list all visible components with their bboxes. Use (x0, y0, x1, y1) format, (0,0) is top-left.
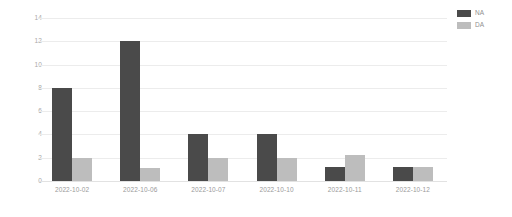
bar[interactable] (277, 158, 297, 181)
bar-group (257, 18, 297, 181)
legend-swatch-icon (457, 10, 471, 17)
x-axis-tick-label: 2022-10-07 (174, 187, 242, 194)
x-axis-tick-label: 2022-10-10 (243, 187, 311, 194)
bar[interactable] (345, 155, 365, 181)
bars-layer (38, 18, 447, 181)
bar[interactable] (325, 167, 345, 181)
plot-area (38, 18, 447, 181)
bar[interactable] (52, 88, 72, 181)
bar[interactable] (413, 167, 433, 181)
bar[interactable] (140, 168, 160, 181)
bar-group (325, 18, 365, 181)
gridline (38, 181, 447, 182)
bar[interactable] (72, 158, 92, 181)
legend-item[interactable]: DA (457, 22, 512, 29)
bar[interactable] (393, 167, 413, 181)
bar-chart: 02468101214 2022-10-022022-10-062022-10-… (0, 0, 512, 217)
legend-label: NA (475, 10, 484, 17)
x-axis-tick-label: 2022-10-12 (379, 187, 447, 194)
legend-swatch-icon (457, 22, 471, 29)
x-axis-tick-label: 2022-10-06 (106, 187, 174, 194)
legend-label: DA (475, 22, 484, 29)
bar-group (393, 18, 433, 181)
bar[interactable] (257, 134, 277, 181)
x-axis-tick-label: 2022-10-11 (311, 187, 379, 194)
bar[interactable] (208, 158, 228, 181)
legend-item[interactable]: NA (457, 10, 512, 17)
bar-group (52, 18, 92, 181)
bar-group (188, 18, 228, 181)
x-axis-tick-label: 2022-10-02 (38, 187, 106, 194)
bar-group (120, 18, 160, 181)
bar[interactable] (188, 134, 208, 181)
bar[interactable] (120, 41, 140, 181)
chart-legend[interactable]: NADA (457, 10, 512, 29)
